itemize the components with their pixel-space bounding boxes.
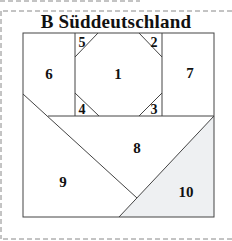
piece-label-8: 8 bbox=[133, 140, 141, 156]
block-title: B Süddeutschland bbox=[0, 11, 232, 33]
piece-label-6: 6 bbox=[45, 66, 53, 82]
piece-label-5: 5 bbox=[79, 35, 86, 50]
piece-label-9: 9 bbox=[59, 174, 67, 190]
quilt-block-diagram: 1 2 3 4 5 6 7 8 9 10 bbox=[0, 0, 232, 241]
piece-label-1: 1 bbox=[114, 66, 122, 82]
piece-label-2: 2 bbox=[151, 35, 158, 50]
piece-label-10: 10 bbox=[179, 184, 194, 200]
piece-label-3: 3 bbox=[151, 102, 158, 117]
piece-label-7: 7 bbox=[186, 65, 194, 81]
piece-label-4: 4 bbox=[79, 102, 86, 117]
